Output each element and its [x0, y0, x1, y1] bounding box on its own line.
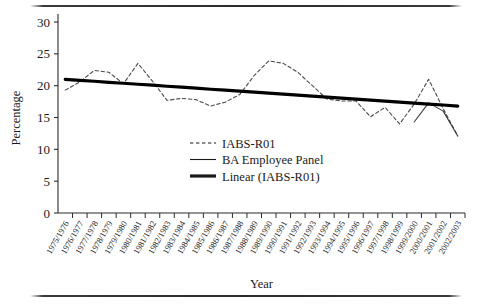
- y-tick-label: 10: [37, 142, 50, 157]
- x-axis: 1975/19761976/19771977/19781978/19791979…: [44, 213, 465, 256]
- series-line: [65, 61, 457, 136]
- y-tick-label: 30: [37, 15, 50, 30]
- y-axis: 051015202530: [37, 14, 58, 221]
- y-tick-label: 0: [44, 206, 51, 221]
- line-chart: 051015202530 1975/19761976/19771977/1978…: [0, 0, 480, 306]
- x-axis-title: Year: [250, 277, 274, 291]
- y-tick-label: 15: [37, 110, 50, 125]
- chart-legend: IABS-R01BA Employee PanelLinear (IABS-R0…: [190, 137, 324, 184]
- data-series-group: [65, 61, 457, 136]
- legend-label: Linear (IABS-R01): [222, 170, 320, 184]
- figure-container: 051015202530 1975/19761976/19771977/1978…: [0, 0, 480, 306]
- y-tick-label: 5: [44, 174, 51, 189]
- y-tick-label: 25: [37, 46, 50, 61]
- legend-label: BA Employee Panel: [222, 153, 324, 167]
- y-tick-label: 20: [37, 78, 50, 93]
- legend-label: IABS-R01: [222, 137, 275, 151]
- series-line: [65, 79, 457, 106]
- series-line: [414, 103, 458, 136]
- y-axis-title: Percentage: [9, 90, 23, 145]
